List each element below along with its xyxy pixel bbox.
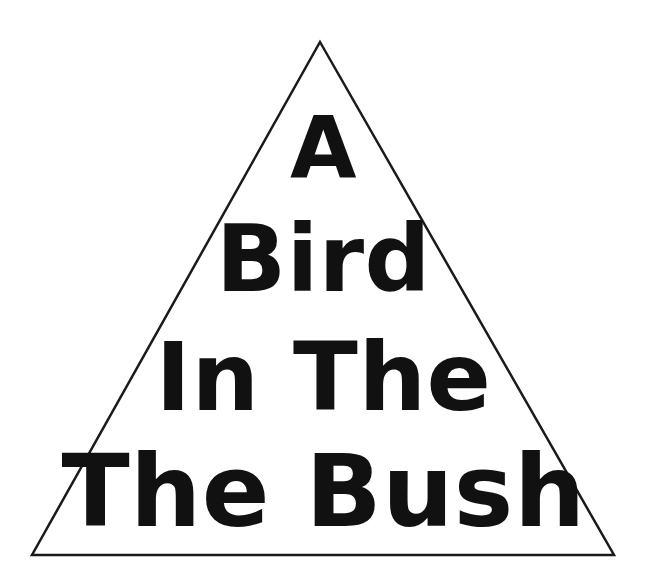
pyramid-text-layer: A Bird In The The Bush bbox=[0, 0, 647, 581]
pyramid-line-2: Bird bbox=[0, 214, 647, 306]
pyramid-figure: A Bird In The The Bush bbox=[0, 0, 647, 581]
pyramid-line-3: In The bbox=[0, 330, 647, 425]
pyramid-line-1: A bbox=[0, 104, 647, 190]
pyramid-line-4: The Bush bbox=[0, 442, 647, 542]
